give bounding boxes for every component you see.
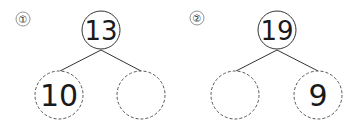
part-value-left: 10: [40, 78, 78, 113]
number-bond-diagrams: ① 13 10 ② 19 9: [0, 0, 356, 132]
part-circle-right[interactable]: [117, 71, 165, 119]
connector-right: [277, 50, 318, 71]
number-bond-2: ② 19 9: [190, 11, 342, 119]
whole-value: 13: [84, 16, 117, 46]
part-value-right: 9: [308, 78, 327, 113]
problem-number: ②: [193, 13, 202, 24]
connector-left: [236, 50, 277, 71]
part-circle-left[interactable]: [211, 71, 259, 119]
connector-left: [60, 50, 101, 71]
number-bond-1: ① 13 10: [16, 11, 165, 119]
connector-right: [101, 50, 141, 71]
problem-number: ①: [19, 14, 28, 25]
whole-value: 19: [260, 16, 293, 46]
